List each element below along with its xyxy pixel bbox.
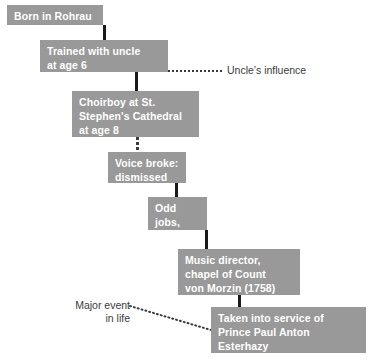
connector-trained-to-choirboy — [135, 72, 138, 92]
connector-voice-broke-to-odd-jobs — [175, 182, 178, 198]
connector-born-to-trained — [103, 25, 106, 41]
connector-odd-jobs-to-music-director — [205, 230, 208, 250]
node-esterhazy[interactable]: Taken into service of Prince Paul Anton … — [211, 307, 366, 353]
connector-music-director-to-esterhazy — [238, 294, 241, 308]
node-voice-broke[interactable]: Voice broke: dismissed — [108, 152, 186, 183]
node-music-director[interactable]: Music director, chapel of Count von Morz… — [178, 249, 300, 295]
node-born[interactable]: Born in Rohrau — [7, 5, 103, 25]
node-trained-with-uncle[interactable]: Trained with uncle at age 6 — [40, 40, 168, 72]
annotation-uncles-influence: Uncle’s influence — [227, 64, 306, 77]
node-choirboy[interactable]: Choirboy at St. Stephen's Cathedral at a… — [72, 91, 199, 137]
node-odd-jobs[interactable]: Odd jobs, teaching — [148, 197, 207, 230]
connector-choirboy-to-voice-broke — [136, 137, 139, 153]
annotation-major-event: Major event in life — [20, 299, 130, 325]
flowchart-diagram: Born in Rohrau Trained with uncle at age… — [0, 0, 381, 360]
